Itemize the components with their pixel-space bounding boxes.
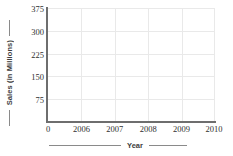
y-axis-line	[46, 7, 48, 123]
x-tick-label: 2007	[98, 125, 132, 134]
gridline-vertical	[182, 8, 183, 122]
gridline-vertical	[148, 8, 149, 122]
gridline-horizontal	[48, 31, 215, 32]
y-tick-label: 375	[0, 5, 44, 14]
y-tick-label: 150	[0, 73, 44, 82]
gridline-horizontal	[48, 54, 215, 55]
x-axis-title-rule-left	[49, 145, 121, 146]
x-axis-title: Year	[121, 141, 149, 150]
x-axis-line	[46, 121, 216, 123]
gridline-horizontal	[48, 76, 215, 77]
x-tick-label: 2006	[64, 125, 98, 134]
x-tick-label: 2010	[197, 125, 231, 134]
x-axis-title-group: Year	[18, 138, 218, 152]
x-axis-title-rule-right	[149, 145, 187, 146]
chart-figure: Sales (in Millions) 375 300 225 150 75 0…	[0, 0, 233, 156]
y-tick-label: 225	[0, 51, 44, 60]
plot-area	[48, 8, 215, 122]
y-tick-label: 300	[0, 28, 44, 37]
gridline-vertical	[115, 8, 116, 122]
y-tick-label: 75	[0, 96, 44, 105]
x-tick-label: 0	[31, 125, 65, 134]
gridline-horizontal	[48, 99, 215, 100]
gridline-vertical	[81, 8, 82, 122]
x-tick-label: 2009	[165, 125, 199, 134]
gridline-horizontal	[48, 8, 215, 9]
gridline-vertical	[214, 8, 215, 122]
x-tick-label: 2008	[131, 125, 165, 134]
